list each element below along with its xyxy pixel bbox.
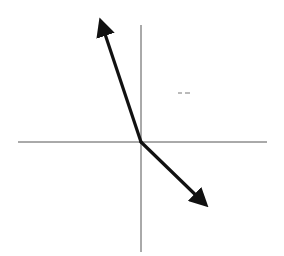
vector-down-right xyxy=(141,142,205,204)
vector-up-left xyxy=(101,22,141,142)
vectors-group xyxy=(101,22,205,204)
vector-diagram xyxy=(0,0,284,256)
diagram-canvas xyxy=(0,0,284,256)
